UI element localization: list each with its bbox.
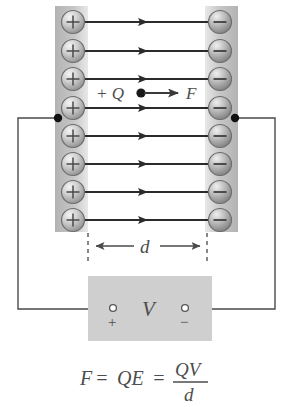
- positive-charge: [62, 68, 85, 91]
- positive-charge: [62, 97, 85, 120]
- junction-dot-left: [54, 114, 62, 122]
- voltage-source: + V −: [88, 276, 212, 341]
- negative-charge: [209, 11, 232, 34]
- capacitor-diagram: + Q F d + V − F = QE = QV d: [0, 0, 293, 407]
- formula-equals-2: =: [152, 367, 166, 389]
- positive-charge: [62, 40, 85, 63]
- negative-charge: [209, 97, 232, 120]
- positive-charge: [62, 181, 85, 204]
- diagram-background: [0, 0, 293, 407]
- formula-denominator: d: [184, 384, 194, 405]
- positive-charge: [62, 125, 85, 148]
- figure-canvas: + Q F d + V − F = QE = QV d: [0, 0, 293, 407]
- force-label: F: [185, 84, 197, 103]
- formula-lhs: F: [79, 367, 93, 389]
- negative-charge: [209, 40, 232, 63]
- negative-charge: [209, 153, 232, 176]
- negative-charge: [209, 68, 232, 91]
- negative-charge: [209, 181, 232, 204]
- positive-charge: [62, 153, 85, 176]
- positive-terminal-label: +: [107, 314, 117, 330]
- junction-dot-right: [231, 114, 239, 122]
- formula-equals-1: =: [95, 367, 109, 389]
- voltage-label: V: [142, 297, 157, 321]
- formula-mid: QE: [117, 367, 144, 389]
- formula-numerator: QV: [175, 359, 203, 380]
- test-charge-label: + Q: [96, 84, 124, 103]
- positive-charge: [62, 209, 85, 232]
- positive-charge: [62, 11, 85, 34]
- dimension-label: d: [140, 236, 150, 257]
- negative-terminal-label: −: [179, 314, 189, 330]
- negative-charge: [209, 209, 232, 232]
- negative-charge: [209, 125, 232, 148]
- negative-terminal-icon: [182, 305, 189, 312]
- positive-terminal-icon: [110, 305, 117, 312]
